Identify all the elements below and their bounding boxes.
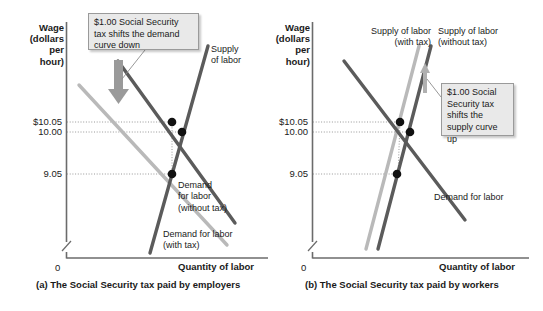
y-axis-title-line-1: Wage <box>14 22 64 33</box>
label-swot-line-2: (without tax) <box>438 37 498 48</box>
y-tick-1000-a: 10.00 <box>14 126 62 137</box>
callout-leader-a <box>122 50 145 79</box>
y-axis-title-a: Wage (dollars per hour) <box>14 22 64 67</box>
equilibrium-dot-1000-b <box>406 128 415 137</box>
label-supply-with-tax-b: Supply of labor (with tax) <box>345 26 431 49</box>
label-dwo-line-2: for labor <box>178 191 227 202</box>
label-dwt-line-1: Demand for labor <box>163 229 233 240</box>
equilibrium-dot-1000 <box>178 128 187 137</box>
label-supply-without-tax-b: Supply of labor (without tax) <box>438 26 498 49</box>
y-axis-title-b-line-3: per <box>260 44 310 55</box>
label-supply-line-1: Supply <box>211 44 241 55</box>
equilibrium-dot-905 <box>168 170 177 179</box>
equilibrium-dot-1005 <box>168 118 177 127</box>
callout-supply-shift: $1.00 Social Security tax shifts the sup… <box>441 83 514 136</box>
label-supply-a: Supply of labor <box>211 44 241 67</box>
label-swot-line-1: Supply of labor <box>438 26 498 37</box>
label-swt-line-2: (with tax) <box>345 37 431 48</box>
equilibrium-dot-1005-b <box>396 118 405 127</box>
curve-supply <box>150 46 208 253</box>
economics-figure: Wage (dollars per hour) $10.05 10.00 9.0… <box>0 0 543 311</box>
origin-label-b: 0 <box>301 262 306 273</box>
label-swt-line-1: Supply of labor <box>345 26 431 37</box>
y-axis-title-line-4: hour) <box>14 56 64 67</box>
y-axis-title-b-line-4: hour) <box>260 56 310 67</box>
label-dwo-line-1: Demand <box>178 180 227 191</box>
y-axis-title-line-2: (dollars <box>14 33 64 44</box>
label-demand-with-tax-a: Demand for labor (with tax) <box>163 229 233 252</box>
callout-demand-shift: $1.00 Social Security tax shifts the dem… <box>88 13 199 50</box>
label-dwo-line-3: (without tax) <box>178 203 227 214</box>
x-axis-title-a: Quantity of labor <box>178 261 254 272</box>
label-demand-b-line-1: Demand for labor <box>434 192 504 203</box>
y-tick-905-b: 9.05 <box>260 168 308 179</box>
axes-b <box>308 22 529 259</box>
guide-lines-a <box>67 122 182 176</box>
y-tick-1000-b: 10.00 <box>260 126 308 137</box>
y-axis-title-line-3: per <box>14 44 64 55</box>
shift-arrow-down-icon <box>108 60 129 104</box>
panel-b: Wage (dollars per hour) $10.05 10.00 9.0… <box>271 0 542 311</box>
callout-leader-b <box>427 79 441 97</box>
origin-label-a: 0 <box>55 262 60 273</box>
label-demand-without-tax-a: Demand for labor (without tax) <box>178 180 227 214</box>
label-supply-line-2: of labor <box>211 55 241 66</box>
y-axis-title-b-line-2: (dollars <box>260 33 310 44</box>
y-tick-905-a: 9.05 <box>14 168 62 179</box>
panel-a-caption: (a) The Social Security tax paid by empl… <box>36 279 240 290</box>
y-axis-title-b-line-1: Wage <box>260 22 310 33</box>
panel-b-caption: (b) The Social Security tax paid by work… <box>305 279 499 290</box>
x-axis-title-b: Quantity of labor <box>439 261 515 272</box>
y-axis-title-b: Wage (dollars per hour) <box>260 22 310 67</box>
equilibrium-dot-905-b <box>393 170 402 179</box>
label-dwt-line-2: (with tax) <box>163 240 233 251</box>
label-demand-b: Demand for labor <box>434 192 504 203</box>
